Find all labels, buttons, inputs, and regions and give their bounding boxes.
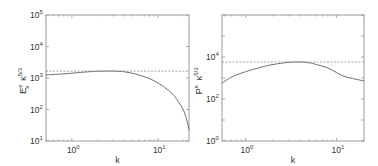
y-tick-label: 100: [206, 135, 219, 146]
right-plot-frame: [222, 15, 364, 141]
spectrum-curve: [46, 71, 189, 130]
x-tick-label: 101: [332, 144, 345, 155]
x-tick-label: 100: [67, 144, 80, 155]
y-axis-label: Eκκ κ5/3: [17, 67, 30, 94]
x-axis-label: k: [115, 155, 120, 165]
y-tick-label: 104: [206, 51, 219, 62]
y-tick-label: 102: [206, 93, 219, 104]
x-tick-label: 101: [153, 144, 166, 155]
y-axis-label: Pκ κ5/3: [193, 67, 204, 95]
y-tick-label: 105: [30, 9, 43, 20]
y-tick-label: 102: [30, 104, 43, 115]
right-chart-svg: 100101100102104kPκ κ5/3: [188, 0, 378, 166]
x-axis-label: k: [291, 155, 296, 165]
y-tick-label: 104: [30, 41, 43, 52]
left-plot-frame: [46, 15, 189, 141]
spectrum-curve: [222, 62, 364, 83]
left-chart-svg: 100101101102103104105kEκκ κ5/3: [0, 0, 190, 166]
x-tick-label: 100: [241, 144, 254, 155]
y-tick-label: 101: [30, 135, 43, 146]
left-chart: 100101101102103104105kEκκ κ5/3: [0, 0, 190, 166]
y-tick-label: 103: [30, 72, 43, 83]
right-chart: 100101100102104kPκ κ5/3: [188, 0, 378, 166]
